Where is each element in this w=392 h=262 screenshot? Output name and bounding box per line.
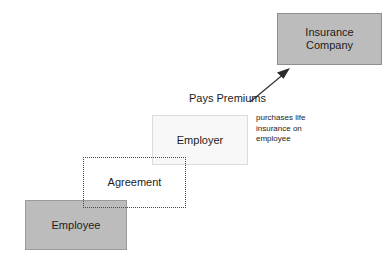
node-agreement[interactable]: Agreement xyxy=(83,157,186,208)
edge-label-pays-premiums: Pays Premiums xyxy=(189,92,266,104)
arrow-head xyxy=(277,68,290,79)
annotation-purchases-life-insurance: purchases life insurance on employee xyxy=(256,113,330,145)
node-insurance-company[interactable]: Insurance Company xyxy=(277,13,382,65)
node-employee-label: Employee xyxy=(52,219,101,232)
node-insurance-company-label: Insurance Company xyxy=(305,26,353,52)
diagram-canvas: Insurance Company Employer Agreement Emp… xyxy=(0,0,392,262)
node-agreement-label: Agreement xyxy=(108,176,162,189)
node-employer-label: Employer xyxy=(177,134,223,147)
